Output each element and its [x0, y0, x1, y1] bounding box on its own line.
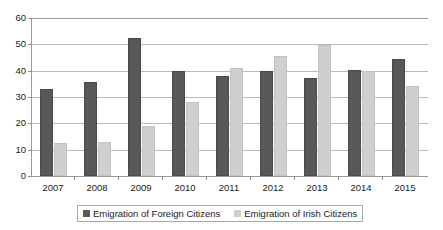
bar-group-2008 [75, 18, 119, 176]
legend-label: Emigration of Irish Citizens [244, 208, 357, 219]
bar-irish-2011[interactable] [230, 68, 243, 176]
x-axis-label-2007: 2007 [31, 182, 75, 196]
bar-group-2013 [295, 18, 339, 176]
bar-group-2010 [163, 18, 207, 176]
legend-label: Emigration of Foreign Citizens [93, 208, 220, 219]
bar-group-2015 [383, 18, 427, 176]
bar-irish-2014[interactable] [362, 71, 375, 176]
y-axis-label: 10 [6, 145, 26, 155]
bar-irish-2015[interactable] [406, 86, 419, 176]
y-axis-label: 60 [6, 13, 26, 23]
x-axis-label-2012: 2012 [251, 182, 295, 196]
x-axis-tick-2009 [119, 176, 163, 181]
y-axis-label: 50 [6, 39, 26, 49]
y-axis-label: 0 [6, 171, 26, 181]
x-axis-label-2015: 2015 [383, 182, 427, 196]
bar-foreign-2007[interactable] [40, 89, 53, 176]
x-axis-tick-2014 [339, 176, 383, 181]
bar-foreign-2011[interactable] [216, 76, 229, 176]
light-gray-swatch [234, 210, 241, 217]
y-axis-label: 40 [6, 66, 26, 76]
x-axis-label-2014: 2014 [339, 182, 383, 196]
dark-gray-swatch [83, 210, 90, 217]
x-axis-tick-2008 [75, 176, 119, 181]
x-axis-tick-2010 [163, 176, 207, 181]
x-axis-tick-2013 [295, 176, 339, 181]
bar-chart: 0102030405060 20072008200920102011201220… [0, 0, 443, 230]
x-axis-labels: 200720082009201020112012201320142015 [31, 182, 427, 196]
legend-entry-irish[interactable]: Emigration of Irish Citizens [234, 208, 357, 219]
bar-group-2012 [251, 18, 295, 176]
bar-foreign-2012[interactable] [260, 71, 273, 176]
x-axis-tick-2011 [207, 176, 251, 181]
bar-irish-2008[interactable] [98, 142, 111, 176]
bar-group-2014 [339, 18, 383, 176]
y-axis-label: 20 [6, 118, 26, 128]
bar-irish-2007[interactable] [54, 143, 67, 176]
x-axis-label-2013: 2013 [295, 182, 339, 196]
bar-groups [31, 18, 427, 176]
x-axis-label-2009: 2009 [119, 182, 163, 196]
bar-irish-2012[interactable] [274, 56, 287, 176]
x-axis-ticks [31, 176, 427, 181]
x-axis-tick-2015 [383, 176, 427, 181]
bar-foreign-2014[interactable] [348, 70, 361, 176]
x-axis-tick-2007 [31, 176, 75, 181]
bar-group-2011 [207, 18, 251, 176]
bar-foreign-2010[interactable] [172, 71, 185, 176]
bar-group-2009 [119, 18, 163, 176]
x-axis-label-2011: 2011 [207, 182, 251, 196]
y-axis-label: 30 [6, 92, 26, 102]
bar-irish-2009[interactable] [142, 126, 155, 176]
chart-legend: Emigration of Foreign CitizensEmigration… [77, 205, 363, 222]
x-axis-label-2008: 2008 [75, 182, 119, 196]
x-axis-tick-2012 [251, 176, 295, 181]
legend-entry-foreign[interactable]: Emigration of Foreign Citizens [83, 208, 220, 219]
bar-foreign-2008[interactable] [84, 82, 97, 176]
x-axis-label-2010: 2010 [163, 182, 207, 196]
bar-foreign-2009[interactable] [128, 38, 141, 176]
bar-irish-2010[interactable] [186, 102, 199, 176]
bar-irish-2013[interactable] [318, 45, 331, 176]
bar-foreign-2013[interactable] [304, 78, 317, 176]
bar-foreign-2015[interactable] [392, 59, 405, 176]
bar-group-2007 [31, 18, 75, 176]
